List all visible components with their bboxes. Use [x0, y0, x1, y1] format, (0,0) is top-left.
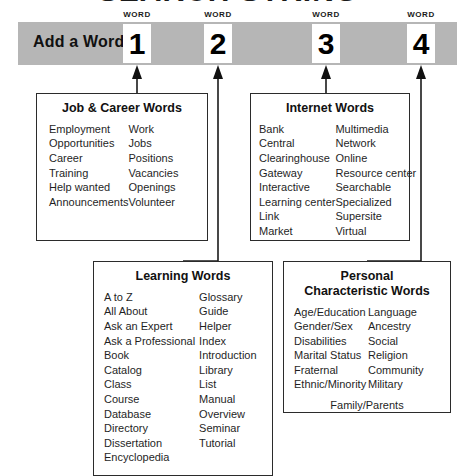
word-slot-1-box[interactable]: 1: [123, 24, 151, 63]
word-slot-2-box[interactable]: 2: [204, 24, 232, 63]
word-item: Training: [49, 166, 129, 181]
add-a-word-label: Add a Word: [33, 33, 124, 51]
word-item: Manual: [199, 392, 268, 407]
word-item: Book: [104, 348, 199, 363]
word-item: Gender/Sex: [294, 319, 368, 334]
word-slot-3-label: WORD: [303, 10, 349, 19]
category-title: Job & Career Words: [41, 101, 203, 116]
word-item: Course: [104, 392, 199, 407]
word-list: Age/EducationGender/SexDisabilitiesMarit…: [294, 305, 368, 393]
word-slot-2-label: WORD: [195, 10, 241, 19]
category-word-columns: BankCentralClearinghouseGatewayInteracti…: [251, 122, 409, 245]
word-item: Religion: [368, 348, 442, 363]
word-item: Helper: [199, 319, 268, 334]
word-item: Clearinghouse: [259, 151, 335, 166]
category-word-columns: Age/EducationGender/SexDisabilitiesMarit…: [284, 305, 450, 399]
word-list: LanguageAncestrySocialReligionCommunityM…: [368, 305, 442, 393]
word-item: Overview: [199, 407, 268, 422]
category-column-1: EmploymentOpportunitiesCareerTrainingHel…: [49, 122, 129, 210]
category-word-columns: A to ZAll AboutAsk an ExpertAsk a Profes…: [94, 290, 272, 471]
word-item: Volunteer: [129, 195, 196, 210]
word-slot-3[interactable]: WORD 3: [303, 22, 349, 65]
category-box-personal-characteristic: PersonalCharacteristic Words Age/Educati…: [283, 261, 451, 413]
word-item: Library: [199, 363, 268, 378]
word-item: Introduction: [199, 348, 268, 363]
word-list: MultimediaNetworkOnlineResource centerSe…: [335, 122, 416, 239]
word-item: Central: [259, 136, 335, 151]
word-item: Openings: [129, 180, 196, 195]
word-item: Tutorial: [199, 436, 268, 451]
word-slot-4-number: 4: [413, 29, 430, 59]
word-item: Online: [335, 151, 416, 166]
word-list: A to ZAll AboutAsk an ExpertAsk a Profes…: [104, 290, 199, 465]
word-list: BankCentralClearinghouseGatewayInteracti…: [259, 122, 335, 239]
word-slot-3-box[interactable]: 3: [312, 24, 340, 63]
word-item: Learning center: [259, 195, 335, 210]
word-list: WorkJobsPositionsVacanciesOpeningsVolunt…: [129, 122, 196, 210]
word-item: Opportunities: [49, 136, 129, 151]
category-title: Learning Words: [98, 269, 268, 284]
word-slot-2[interactable]: WORD 2: [195, 22, 241, 65]
word-slot-4-box[interactable]: 4: [407, 24, 435, 63]
word-slot-1-number: 1: [129, 29, 146, 59]
word-list: EmploymentOpportunitiesCareerTrainingHel…: [49, 122, 129, 210]
word-item: List: [199, 377, 268, 392]
word-item: Fraternal: [294, 363, 368, 378]
word-item: Social: [368, 334, 442, 349]
word-item: Disabilities: [294, 334, 368, 349]
word-item: Resource center: [335, 166, 416, 181]
word-slot-2-number: 2: [210, 29, 227, 59]
word-item: Gateway: [259, 166, 335, 181]
word-item: Bank: [259, 122, 335, 137]
word-item: Ask a Professional: [104, 334, 199, 349]
word-item: Index: [199, 334, 268, 349]
word-item: Network: [335, 136, 416, 151]
word-item: Class: [104, 377, 199, 392]
word-item: All About: [104, 304, 199, 319]
word-item: Announcements: [49, 195, 129, 210]
word-item: Employment: [49, 122, 129, 137]
word-item: Specialized: [335, 195, 416, 210]
word-item: Language: [368, 305, 442, 320]
category-footer-word: Family/Parents: [284, 398, 450, 418]
category-title: PersonalCharacteristic Words: [288, 269, 446, 299]
category-column-2: GlossaryGuideHelperIndexIntroductionLibr…: [199, 290, 268, 465]
category-column-2: WorkJobsPositionsVacanciesOpeningsVolunt…: [129, 122, 196, 210]
word-item: Catalog: [104, 363, 199, 378]
word-item: Virtual: [335, 224, 416, 239]
word-item: Link: [259, 209, 335, 224]
word-slot-1-label: WORD: [114, 10, 160, 19]
category-box-job-career: Job & Career Words EmploymentOpportuniti…: [36, 93, 208, 241]
word-item: Multimedia: [335, 122, 416, 137]
category-column-1: BankCentralClearinghouseGatewayInteracti…: [259, 122, 335, 239]
word-item: A to Z: [104, 290, 199, 305]
word-slot-1[interactable]: WORD 1: [114, 22, 160, 65]
word-item: Market: [259, 224, 335, 239]
word-item: Database: [104, 407, 199, 422]
word-list: GlossaryGuideHelperIndexIntroductionLibr…: [199, 290, 268, 451]
word-item: Ethnic/Minority: [294, 377, 368, 392]
category-box-learning: Learning Words A to ZAll AboutAsk an Exp…: [93, 261, 273, 476]
category-box-internet: Internet Words BankCentralClearinghouseG…: [250, 93, 410, 241]
category-column-1: A to ZAll AboutAsk an ExpertAsk a Profes…: [104, 290, 199, 465]
word-slot-4[interactable]: WORD 4: [398, 22, 444, 65]
word-slot-4-label: WORD: [398, 10, 444, 19]
word-item: Vacancies: [129, 166, 196, 181]
category-column-2: LanguageAncestrySocialReligionCommunityM…: [368, 305, 442, 393]
word-item: Career: [49, 151, 129, 166]
word-item: Supersite: [335, 209, 416, 224]
word-item: Seminar: [199, 421, 268, 436]
word-item: Work: [129, 122, 196, 137]
word-item: Directory: [104, 421, 199, 436]
word-item: Help wanted: [49, 180, 129, 195]
word-item: Interactive: [259, 180, 335, 195]
word-item: Military: [368, 377, 442, 392]
category-column-1: Age/EducationGender/SexDisabilitiesMarit…: [294, 305, 368, 393]
category-column-2: MultimediaNetworkOnlineResource centerSe…: [335, 122, 416, 239]
word-item: Searchable: [335, 180, 416, 195]
word-item: Encyclopedia: [104, 450, 199, 465]
word-item: Community: [368, 363, 442, 378]
page-title: SEARCH STRING: [0, 0, 457, 8]
word-item: Marital Status: [294, 348, 368, 363]
category-title: Internet Words: [255, 101, 405, 116]
